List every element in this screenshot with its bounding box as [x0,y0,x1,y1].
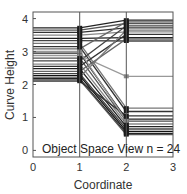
x-tick-label: 3 [170,161,176,173]
parallel-coordinates-chart: 01234 0123 Coordinate Curve Height Objec… [0,0,187,194]
curve-line [33,38,173,39]
y-axis-label: Curve Height [3,49,17,120]
y-tick-label: 3 [22,46,28,58]
x-tick-label: 2 [123,161,129,173]
y-tick-label: 0 [22,144,28,156]
y-tick-label: 4 [22,13,28,25]
curve-lines [33,20,173,134]
x-axis-label: Coordinate [74,178,133,192]
curve-line [33,52,173,121]
y-tick-label: 2 [22,79,28,91]
chart-annotation: Object Space View n = 24 [42,142,181,156]
curve-line [33,76,173,132]
x-tick-label: 0 [30,161,36,173]
y-axis-ticks: 01234 [22,13,36,157]
x-axis-ticks: 0123 [30,161,176,173]
x-tick-label: 1 [77,161,83,173]
y-tick-label: 1 [22,111,28,123]
